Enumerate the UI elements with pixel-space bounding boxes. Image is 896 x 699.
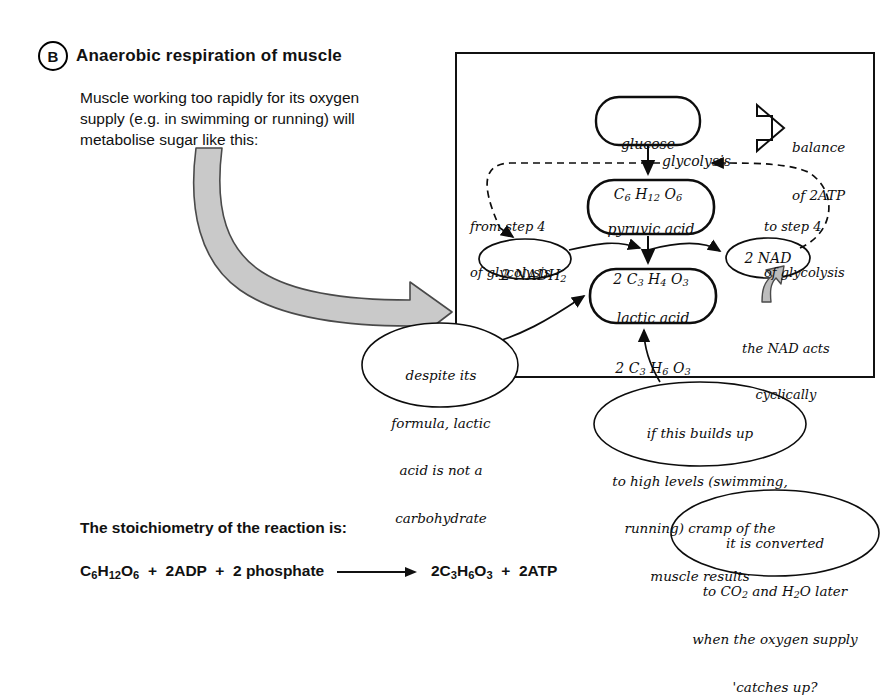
lactic-note-line-1: despite its: [370, 368, 512, 384]
equation-reactants: C6H12O6 + 2ADP + 2 phosphate: [80, 562, 324, 579]
balance-label-line-1: balance: [792, 140, 845, 156]
pyruvic-node-name: pyruvic acid: [588, 221, 714, 238]
converted-note-line-4: 'catches up?: [673, 680, 877, 696]
nadh2-node-label: 2 NADH2: [501, 267, 566, 283]
lactic-note-line-4: carbohydrate: [370, 511, 512, 527]
converted-note-line-1: it is converted: [673, 536, 877, 552]
from-step-line-1: from step 4: [470, 219, 551, 234]
lactic-note-line-2: formula, lactic: [370, 416, 512, 432]
reaction-arrow-icon: [335, 565, 421, 579]
lactic-node-name: lactic acid: [590, 310, 716, 327]
nadh2-node: 2 NADH2: [479, 250, 571, 301]
nad-cyclic-line-1: the NAD acts: [742, 341, 830, 356]
to-step-line-1: to step 4: [764, 219, 845, 234]
lactic-acid-node: lactic acid 2 C3 H6 O3: [590, 277, 716, 411]
cramp-note-line-1: if this builds up: [598, 426, 802, 442]
cramp-note-line-2: to high levels (swimming,: [598, 474, 802, 490]
glucose-node-name: glucose: [596, 136, 700, 153]
lactic-note-callout: despite its formula, lactic acid is not …: [370, 336, 512, 559]
converted-note-line-3: when the oxygen supply: [673, 632, 877, 648]
converted-note-line-2: to CO2 and H2O later: [673, 584, 877, 601]
stoichiometry-title: The stoichiometry of the reaction is:: [80, 519, 347, 537]
lactic-note-line-3: acid is not a: [370, 463, 512, 479]
converted-note-callout: it is converted to CO2 and H2O later whe…: [673, 504, 877, 699]
stoichiometry-equation: C6H12O6 + 2ADP + 2 phosphate 2C3H6O3 + 2…: [80, 562, 557, 581]
lactic-node-formula: 2 C3 H6 O3: [590, 360, 716, 378]
balance-arrow-icon: [757, 105, 784, 151]
to-step-line-2: of glycolysis: [764, 265, 845, 280]
equation-products: 2C3H6O3 + 2ATP: [431, 562, 558, 579]
nad-node: 2 NAD: [726, 250, 810, 267]
glycolysis-label: glycolysis: [662, 153, 731, 170]
